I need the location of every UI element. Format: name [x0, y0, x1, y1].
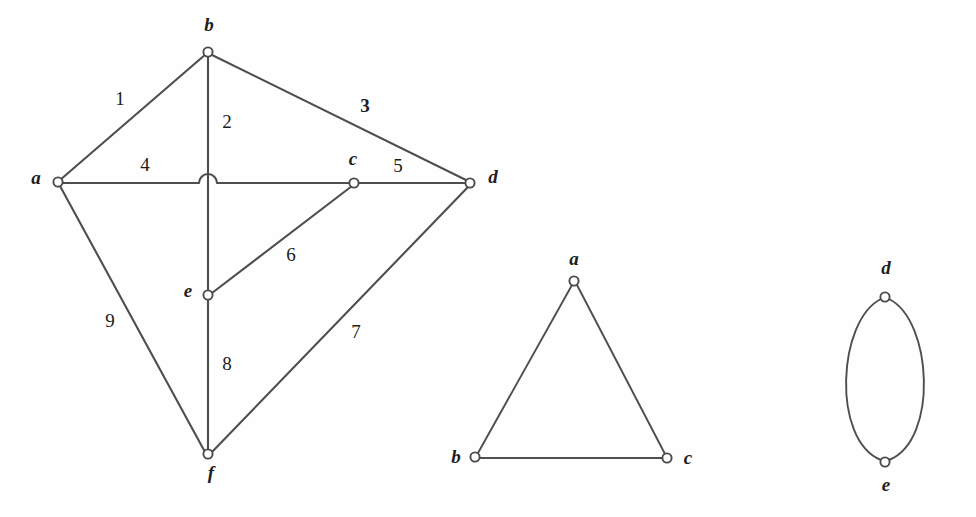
edge-label-2: 2: [222, 111, 232, 132]
edge-label-5: 5: [393, 155, 403, 176]
vertex-right-d[interactable]: [880, 292, 889, 301]
vertex-label-a: a: [31, 167, 41, 188]
edge-label-9: 9: [105, 310, 115, 331]
edge-middle-a-b: [478, 285, 572, 453]
edge-3-b-d: [210, 54, 468, 181]
figure-canvas: a b c d e f 1 2 3 4 5 6 7 8 9 a b: [0, 0, 976, 517]
graph-middle: a b c: [451, 248, 693, 468]
graph-diagram-svg: a b c d e f 1 2 3 4 5 6 7 8 9 a b: [0, 0, 976, 517]
edge-right-d-e-left: [846, 299, 881, 460]
vertex-label-e: e: [184, 280, 193, 301]
edge-label-8: 8: [222, 353, 232, 374]
vertex-label-c: c: [349, 148, 358, 169]
vertex-b[interactable]: [203, 47, 212, 56]
vertex-middle-c[interactable]: [662, 453, 671, 462]
edge-middle-a-c: [577, 285, 665, 454]
edge-6-e-c: [212, 186, 352, 293]
vertex-label-b: b: [204, 14, 214, 35]
edge-label-6: 6: [286, 244, 296, 265]
graph-right: d e: [846, 257, 924, 495]
edge-1-b-a: [60, 54, 206, 180]
vertex-f[interactable]: [203, 449, 212, 458]
edge-label-4: 4: [140, 154, 150, 175]
vertex-a[interactable]: [53, 177, 62, 186]
edge-9-a-f: [60, 186, 205, 452]
edge-right-d-e-right: [889, 299, 924, 460]
vertex-e[interactable]: [203, 290, 212, 299]
vertex-middle-a[interactable]: [569, 276, 578, 285]
vertex-middle-b[interactable]: [470, 452, 479, 461]
edge-label-3: 3: [360, 95, 370, 116]
vertex-label-middle-b: b: [451, 446, 461, 467]
vertex-label-d: d: [488, 166, 498, 187]
vertex-label-f: f: [208, 462, 216, 483]
edge-label-7: 7: [351, 321, 361, 342]
vertex-c[interactable]: [349, 178, 358, 187]
edge-7-d-f: [212, 187, 468, 452]
vertex-label-middle-a: a: [569, 248, 579, 269]
vertex-label-right-e: e: [882, 474, 891, 495]
vertex-right-e[interactable]: [880, 457, 889, 466]
edge-label-1: 1: [115, 88, 125, 109]
vertex-label-middle-c: c: [684, 447, 693, 468]
graph-left: a b c d e f 1 2 3 4 5 6 7 8 9: [31, 14, 498, 483]
vertex-label-right-d: d: [881, 257, 891, 278]
vertex-d[interactable]: [465, 178, 474, 187]
